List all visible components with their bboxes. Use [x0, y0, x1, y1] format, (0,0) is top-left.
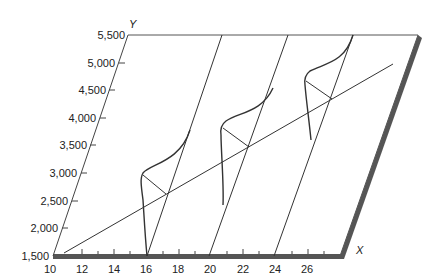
- x24-vertical-line: [274, 35, 353, 256]
- distribution-curve-x20: [221, 88, 273, 205]
- y-tick-label: 2,000: [30, 222, 58, 234]
- y-tick-label: 3,500: [59, 139, 87, 151]
- x-tick-labels: 10 12 14 16 18 20 22 24 26: [44, 263, 313, 275]
- regression-line: [64, 64, 393, 253]
- y-tick-label: 1,500: [21, 250, 49, 262]
- plane-right-edge-shadow: [340, 35, 422, 259]
- x-tick-label: 24: [269, 263, 281, 275]
- mean-connector-x16: [143, 175, 166, 194]
- y-tick-label: 4,500: [78, 84, 106, 96]
- x-tick-label: 16: [140, 263, 152, 275]
- x-tick-label: 20: [204, 263, 216, 275]
- x-tick-label: 12: [76, 263, 88, 275]
- x-axis-bar: [53, 254, 344, 259]
- x-tick-label: 14: [108, 263, 120, 275]
- mean-connector-x24: [306, 81, 332, 99]
- x-tick-label: 22: [237, 263, 249, 275]
- y-tick-label: 5,000: [87, 57, 115, 69]
- y-axis-title: Y: [129, 18, 137, 30]
- y-tick-label: 2,500: [40, 195, 68, 207]
- x-tick-label: 26: [301, 263, 313, 275]
- x-axis-title: X: [355, 244, 364, 256]
- x-tick-label: 10: [44, 263, 56, 275]
- distribution-curve-x24: [305, 35, 353, 140]
- x-tick-label: 18: [172, 263, 184, 275]
- mean-connector-x20: [223, 128, 249, 147]
- y-tick-label: 5,500: [97, 29, 125, 41]
- y-tick-label: 4,000: [68, 112, 96, 124]
- y-tick-label: 3,000: [49, 167, 77, 179]
- x16-vertical-line: [147, 35, 222, 256]
- plane-right-edge: [340, 35, 418, 256]
- x-axis-ticks: [82, 249, 324, 254]
- regression-3d-figure: 1,500 2,000 2,500 3,000 3,500 4,000 4,50…: [0, 0, 438, 277]
